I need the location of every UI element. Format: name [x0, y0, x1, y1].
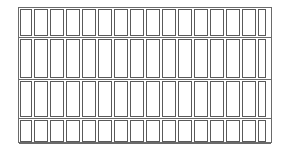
- grid-cell: [20, 39, 32, 78]
- grid-cell: [82, 9, 96, 36]
- grid-row: [19, 39, 271, 78]
- grid-cell: [178, 120, 192, 142]
- grid-cell: [210, 39, 224, 78]
- grid-row: [19, 9, 271, 36]
- grid-cell: [162, 120, 176, 142]
- grid-cell: [194, 120, 208, 142]
- grid-cell: [98, 39, 112, 78]
- grid-cell: [210, 120, 224, 142]
- grid-cell: [34, 120, 48, 142]
- grid-cell: [114, 81, 128, 117]
- grid-cell: [258, 9, 266, 36]
- grid-cell: [98, 120, 112, 142]
- grid-cell: [66, 9, 80, 36]
- grid-cell: [146, 9, 160, 36]
- grid-cell: [210, 81, 224, 117]
- grid-cell: [98, 81, 112, 117]
- grid-cell: [50, 120, 64, 142]
- grid-cell: [178, 39, 192, 78]
- grid-cell: [114, 39, 128, 78]
- grid-row: [19, 81, 271, 117]
- grid-cell: [258, 120, 266, 142]
- grid-cell: [20, 120, 32, 142]
- grid-cell: [66, 120, 80, 142]
- grid-frame: [18, 7, 272, 143]
- grid-cell: [82, 81, 96, 117]
- grid-cell: [98, 9, 112, 36]
- grid-cell: [258, 81, 266, 117]
- grid-cell: [226, 81, 240, 117]
- grid-cell: [34, 81, 48, 117]
- grid-cell: [146, 39, 160, 78]
- grid-cell: [50, 39, 64, 78]
- grid-cell: [130, 9, 144, 36]
- grid-cell: [66, 39, 80, 78]
- grid-cell: [130, 81, 144, 117]
- grid-cell: [226, 39, 240, 78]
- grid-cell: [194, 39, 208, 78]
- grid-cell: [130, 39, 144, 78]
- grid-cell: [242, 39, 256, 78]
- grid-cell: [178, 9, 192, 36]
- grid-cell: [66, 81, 80, 117]
- grid-cell: [162, 9, 176, 36]
- grid-cell: [178, 81, 192, 117]
- grid-cell: [242, 81, 256, 117]
- grid-cell: [34, 39, 48, 78]
- grid-cell: [50, 9, 64, 36]
- grid-row: [19, 120, 271, 142]
- grid-cell: [194, 81, 208, 117]
- grid-cell: [82, 120, 96, 142]
- grid-cell: [50, 81, 64, 117]
- grid-cell: [258, 39, 266, 78]
- grid-cell: [114, 9, 128, 36]
- grid-cell: [162, 81, 176, 117]
- grid-cell: [130, 120, 144, 142]
- grid-cell: [226, 120, 240, 142]
- grid-cell: [194, 9, 208, 36]
- grid-cell: [114, 120, 128, 142]
- grid-cell: [210, 9, 224, 36]
- grid-cell: [162, 39, 176, 78]
- grid-cell: [242, 9, 256, 36]
- grid-cell: [242, 120, 256, 142]
- grid-cell: [82, 39, 96, 78]
- grid-cell: [146, 120, 160, 142]
- grid-cell: [20, 9, 32, 36]
- grid-cell: [146, 81, 160, 117]
- grid-cell: [226, 9, 240, 36]
- grid-cell: [20, 81, 32, 117]
- grid-cell: [34, 9, 48, 36]
